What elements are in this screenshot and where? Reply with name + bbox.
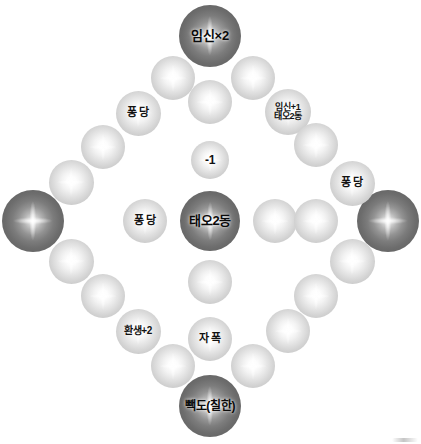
board-node-label: 퐁 당: [127, 107, 149, 119]
board-node-top-corner[interactable]: 임신×2: [179, 5, 241, 67]
board-node-bottom-corner[interactable]: 빽도(칠한): [179, 375, 241, 437]
board-node-ring-nw-4[interactable]: [49, 160, 94, 205]
board-node-ring-se-4[interactable]: [231, 344, 275, 388]
board-node-ring-se-3[interactable]: [266, 309, 310, 353]
board-node-diag-s-in-1[interactable]: [188, 260, 232, 304]
board-node-label: -1: [205, 154, 215, 167]
board-node-diag-nw-in-1[interactable]: [188, 80, 232, 124]
board-node-label: 임신×2: [191, 29, 229, 43]
board-node-ring-se-2[interactable]: [294, 274, 338, 318]
board-node-label: 빽도(칠한): [185, 400, 235, 413]
board-node-left-corner[interactable]: [2, 190, 64, 252]
board-node-diag-se-in-1[interactable]: [253, 199, 297, 243]
board-node-diag-se-in-2[interactable]: [294, 199, 338, 243]
board-node-label: 자 폭: [199, 333, 221, 345]
board-node-ring-ne-1[interactable]: [231, 56, 275, 100]
board-node-ring-sw-3[interactable]: 환생+2: [116, 309, 161, 354]
board-node-ring-ne-4[interactable]: 퐁 당: [330, 161, 375, 206]
board-node-label: 태오2동: [189, 214, 231, 228]
board-node-ring-se-1[interactable]: [330, 239, 375, 284]
board-node-diag-nw-in-2[interactable]: -1: [191, 141, 229, 179]
board-node-ring-nw-3[interactable]: [81, 125, 125, 169]
board-node-ring-sw-2[interactable]: [81, 274, 125, 318]
board-node-ring-sw-1[interactable]: [49, 239, 94, 284]
scan-artifact-speck: [392, 438, 418, 442]
board-node-label: 퐁 당: [341, 177, 363, 189]
board-node-diag-sw-in-1[interactable]: 퐁 당: [123, 199, 167, 243]
board-node-diag-s-in-2[interactable]: 자 폭: [188, 317, 232, 361]
board-node-label: 환생+2: [124, 326, 152, 337]
board-node-ring-ne-3[interactable]: [294, 123, 338, 167]
board-node-label: 임신+1 태오2동: [274, 103, 302, 122]
yut-game-board: 임신×2빽도(칠한)태오2동임신+1 태오2동퐁 당퐁 당환생+2-1퐁 당자 …: [0, 0, 421, 444]
board-node-ring-nw-2[interactable]: 퐁 당: [116, 91, 161, 136]
board-node-ring-sw-4[interactable]: [151, 344, 195, 388]
board-node-center[interactable]: 태오2동: [180, 191, 240, 251]
board-node-label: 퐁 당: [134, 215, 156, 227]
